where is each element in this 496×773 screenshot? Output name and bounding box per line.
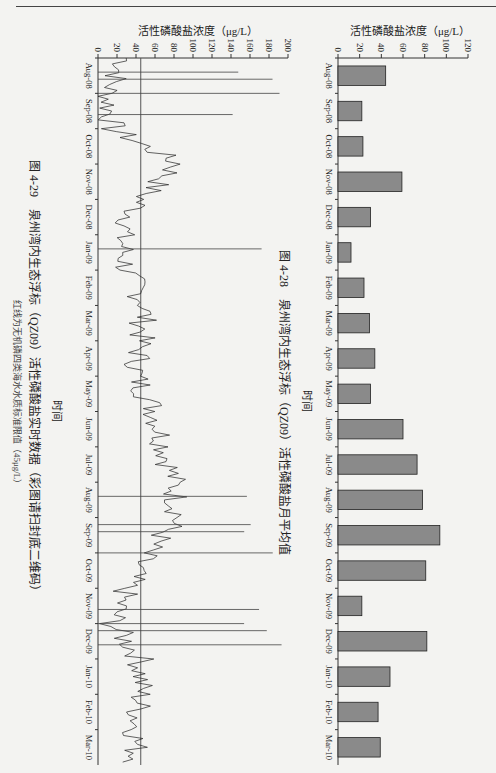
bar-xtick-label: Nov-08 <box>324 169 334 195</box>
line-chart-caption: 图 4-29 泉州湾内生态浮标（QZ09）活性磷酸盐实时数据（彩图请扫封底二维码… <box>26 160 44 597</box>
line-ytick-label: 40 <box>131 43 141 53</box>
bar <box>338 419 403 438</box>
bar-ytick-label: 120 <box>463 39 473 53</box>
line-chart-plot: 020406080100120140160180200Aug-08Sep-08O… <box>66 0 306 773</box>
bar-xtick-label: Jun-09 <box>324 418 334 441</box>
bar <box>338 702 378 721</box>
bar <box>338 596 362 615</box>
bar-chart: 020406080100120Aug-08Sep-08Oct-08Nov-08D… <box>296 0 496 773</box>
line-xtick-label: Jan-10 <box>84 665 94 688</box>
bar <box>338 172 402 191</box>
line-xtick-label: Mar-09 <box>84 310 94 335</box>
line-xtick-label: Nov-09 <box>84 593 94 619</box>
bar-xtick-label: Mar-10 <box>324 735 334 760</box>
line-ytick-label: 140 <box>226 39 236 53</box>
bar-xtick-label: Jan-10 <box>324 665 334 688</box>
line-xtick-label: Jun-09 <box>84 418 94 441</box>
line-chart-xlabel: 时间 <box>50 400 66 422</box>
bar <box>338 526 440 545</box>
bar-xtick-label: Mar-09 <box>324 310 334 335</box>
line-chart: 020406080100120140160180200Aug-08Sep-08O… <box>0 0 306 773</box>
bar-xtick-label: Sep-08 <box>324 99 334 123</box>
line-ytick-label: 20 <box>112 43 122 53</box>
bar-xtick-label: Aug-09 <box>324 487 334 513</box>
line-xtick-label: Feb-09 <box>84 276 94 300</box>
data-series-line <box>98 58 187 762</box>
line-xtick-label: Apr-09 <box>84 346 94 370</box>
line-ytick-label: 0 <box>93 48 103 53</box>
bar <box>338 455 417 474</box>
bar-xtick-label: Aug-08 <box>324 63 334 89</box>
line-chart-ylabel: 活性磷酸盐浓度（μg/L） <box>128 22 268 38</box>
bar-xtick-label: Sep-09 <box>324 523 334 547</box>
line-ytick-label: 100 <box>188 39 198 53</box>
line-chart-subcaption: 红线为无机磷四类海水水质标准限值（45μg/L） <box>11 300 24 488</box>
line-ytick-label: 200 <box>283 39 293 53</box>
bar-chart-plot: 020406080100120Aug-08Sep-08Oct-08Nov-08D… <box>296 0 496 773</box>
bar-ytick-label: 80 <box>420 43 430 53</box>
bar-ytick-label: 0 <box>333 48 343 53</box>
bar-ytick-label: 40 <box>376 43 386 53</box>
bar-xtick-label: Feb-10 <box>324 700 334 724</box>
bar-ytick-label: 20 <box>355 43 365 53</box>
bar-xtick-label: Oct-08 <box>324 135 334 159</box>
line-xtick-label: Aug-09 <box>84 487 94 513</box>
bar <box>338 738 380 757</box>
bar-ytick-label: 60 <box>398 43 408 53</box>
line-xtick-label: Sep-09 <box>84 523 94 547</box>
bar-xtick-label: Dec-08 <box>324 205 334 230</box>
bar <box>338 667 390 686</box>
bar <box>338 101 362 120</box>
line-xtick-label: Aug-08 <box>84 63 94 89</box>
line-ytick-label: 160 <box>245 39 255 53</box>
line-xtick-label: Dec-09 <box>84 629 94 654</box>
bar-ytick-label: 100 <box>441 39 451 53</box>
bar <box>338 207 371 226</box>
line-ytick-label: 120 <box>207 39 217 53</box>
line-xtick-label: May-09 <box>84 380 94 407</box>
bar <box>338 490 423 509</box>
bar <box>338 137 363 156</box>
bar <box>338 349 375 368</box>
rotated-page: 020406080100120Aug-08Sep-08Oct-08Nov-08D… <box>0 0 496 773</box>
line-xtick-label: Jul-09 <box>84 454 94 475</box>
line-xtick-label: Feb-10 <box>84 700 94 724</box>
bar <box>338 561 426 580</box>
bar-xtick-label: Apr-09 <box>324 346 334 370</box>
bar <box>338 632 427 651</box>
line-xtick-label: Mar-10 <box>84 735 94 760</box>
line-xtick-label: Oct-09 <box>84 559 94 583</box>
bar <box>338 384 371 403</box>
line-ytick-label: 60 <box>150 43 160 53</box>
bar <box>338 278 364 297</box>
bar-xtick-label: Jan-09 <box>324 241 334 264</box>
bar-xtick-label: May-09 <box>324 380 334 407</box>
bar-xtick-label: Dec-09 <box>324 629 334 654</box>
bar-xtick-label: Feb-09 <box>324 276 334 300</box>
line-xtick-label: Dec-08 <box>84 205 94 230</box>
bar-xtick-label: Nov-09 <box>324 593 334 619</box>
bar-xtick-label: Oct-09 <box>324 559 334 583</box>
line-xtick-label: Jan-09 <box>84 241 94 264</box>
bar <box>338 243 351 262</box>
bar-chart-ylabel: 活性磷酸盐浓度（μg/L） <box>340 22 480 38</box>
line-ytick-label: 180 <box>264 39 274 53</box>
line-xtick-label: Sep-08 <box>84 99 94 123</box>
line-ytick-label: 80 <box>169 43 179 53</box>
bar <box>338 66 386 85</box>
line-xtick-label: Nov-08 <box>84 169 94 195</box>
line-xtick-label: Oct-08 <box>84 135 94 159</box>
bar <box>338 313 369 332</box>
bar-xtick-label: Jul-09 <box>324 454 334 475</box>
